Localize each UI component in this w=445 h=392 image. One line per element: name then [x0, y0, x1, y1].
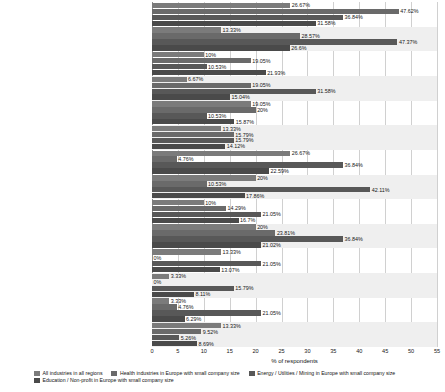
bar-value-label: 10.53%: [207, 181, 227, 187]
bar-value-label: 9.52%: [201, 329, 218, 335]
bar-value-label: 10.53%: [207, 113, 227, 119]
bar: [152, 58, 251, 63]
bar-group: 47.62%: [152, 9, 437, 14]
category-row: Activists/hacktivists10%14.29%21.05%16.7…: [152, 199, 437, 224]
category-row: Current service providers/consultants/co…: [152, 51, 437, 76]
category-row: Do not know13.33%9.52%5.26%8.69%: [152, 322, 437, 347]
bar-group: 10.53%: [152, 181, 437, 186]
bar-value-label: 10.53%: [207, 64, 227, 70]
x-tick-label: 25: [278, 348, 284, 354]
bar: [152, 119, 234, 124]
bar: [152, 70, 266, 75]
category-row: Former employees13.33%28.57%47.37%26.6%: [152, 27, 437, 52]
bar-value-label: 8.69%: [197, 341, 214, 347]
bar: [152, 206, 226, 211]
x-tick-label: 0: [150, 348, 153, 354]
bar-value-label: 10%: [204, 200, 216, 206]
bar: [152, 236, 343, 241]
bar-group: 9.52%: [152, 329, 437, 334]
x-tick-label: 5: [176, 348, 179, 354]
bar-value-label: 21.05%: [261, 310, 281, 316]
bar-group: 6.67%: [152, 77, 437, 82]
bar-value-label: 3.33%: [169, 273, 186, 279]
bar: [152, 33, 300, 38]
bar-group: 10.53%: [152, 113, 437, 118]
x-tick-label: 45: [382, 348, 388, 354]
bar: [152, 249, 221, 254]
bar-value-label: 31.58%: [316, 88, 336, 94]
bar-group: 31.58%: [152, 21, 437, 26]
bar: [152, 292, 194, 297]
bar-value-label: 0%: [152, 279, 161, 285]
bar: [152, 261, 261, 266]
category-row: Former service providers/consultants/con…: [152, 76, 437, 101]
bar-value-label: 20%: [256, 224, 268, 230]
bar-group: 15.79%: [152, 132, 437, 137]
bar-group: 19.05%: [152, 83, 437, 88]
bar-value-label: 8.11%: [194, 291, 210, 297]
legend-item[interactable]: Energy / Utilities / Mining in Europe wi…: [249, 371, 396, 376]
bar: [152, 310, 261, 315]
bar-group: 20%: [152, 224, 437, 229]
bar-group: 15.04%: [152, 94, 437, 99]
bar-group: 3.33%: [152, 298, 437, 303]
bar-value-label: 36.84%: [343, 236, 363, 242]
legend-label: Health industries in Europe with small c…: [120, 371, 240, 376]
bar: [152, 230, 275, 235]
legend-item[interactable]: Health industries in Europe with small c…: [111, 371, 239, 376]
bar-group: 16.7%: [152, 218, 437, 223]
bar-value-label: 19.05%: [251, 82, 271, 88]
bar-group: 20%: [152, 107, 437, 112]
bar-group: 26.67%: [152, 151, 437, 156]
bar-group: 21.05%: [152, 261, 437, 266]
bar-group: 21.05%: [152, 310, 437, 315]
bar-value-label: 13.33%: [221, 323, 241, 329]
category-row: Competitors20%23.81%36.84%21.02%: [152, 224, 437, 249]
bar-group: 15.79%: [152, 286, 437, 291]
bar: [152, 298, 169, 303]
bar: [152, 15, 343, 20]
x-axis-label: % of respondents: [152, 358, 437, 364]
bar: [152, 83, 251, 88]
bar-group: 13.33%: [152, 249, 437, 254]
x-tick-label: 20: [253, 348, 259, 354]
x-tick-label: 10: [201, 348, 207, 354]
bar-group: 10%: [152, 200, 437, 205]
bar: [152, 193, 245, 198]
bar: [152, 175, 256, 180]
category-row: Current employees26.67%47.62%36.84%31.58…: [152, 2, 437, 27]
plot-area: Current employees26.67%47.62%36.84%31.58…: [152, 2, 437, 347]
bar-group: 23.81%: [152, 230, 437, 235]
bar-group: 26.67%: [152, 3, 437, 8]
bar: [152, 101, 251, 106]
bar-group: 36.84%: [152, 236, 437, 241]
bar: [152, 162, 343, 167]
bar-value-label: 26.6%: [290, 45, 307, 51]
bar: [152, 341, 197, 346]
legend-item[interactable]: All industries in all regions: [34, 371, 102, 376]
bar-group: 3.33%: [152, 274, 437, 279]
category-rows: Current employees26.67%47.62%36.84%31.58…: [152, 2, 437, 347]
bar-value-label: 4.76%: [177, 156, 194, 162]
bar-group: 36.84%: [152, 15, 437, 20]
category-row: Hackers26.67%4.76%36.84%22.59%: [152, 150, 437, 175]
legend-label: Education / Non-profit in Europe with sm…: [43, 378, 174, 383]
bar-value-label: 36.84%: [343, 162, 363, 168]
bar-value-label: 15.79%: [234, 285, 254, 291]
bar-group: 6.29%: [152, 316, 437, 321]
bar: [152, 329, 201, 334]
bar-value-label: 13.07%: [220, 267, 240, 273]
bar-value-label: 28.57%: [300, 33, 320, 39]
bar: [152, 187, 370, 192]
bar-value-label: 16.7%: [239, 217, 256, 223]
bar-value-label: 13.33%: [221, 249, 241, 255]
bar-group: 17.86%: [152, 193, 437, 198]
bar-group: 36.84%: [152, 162, 437, 167]
bar-value-label: 47.37%: [397, 39, 417, 45]
bar-group: 47.37%: [152, 39, 437, 44]
bar-group: 4.76%: [152, 156, 437, 161]
bar: [152, 21, 316, 26]
bar-group: 15.79%: [152, 138, 437, 143]
bar-group: 0%: [152, 255, 437, 260]
legend-item[interactable]: Education / Non-profit in Europe with sm…: [34, 378, 174, 383]
